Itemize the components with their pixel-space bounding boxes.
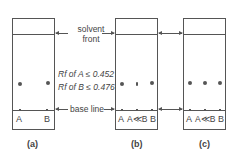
origin-tick — [219, 109, 221, 111]
caption-a: (a) — [27, 139, 38, 149]
solvent-front-arrow-right — [102, 33, 114, 34]
caption-b: (b) — [131, 139, 143, 149]
solvent-front-arrow-bc — [159, 33, 182, 34]
spot-mix — [203, 81, 207, 85]
lane-label-mix: A≪B — [195, 115, 215, 124]
rf-b-label: Rf of B ≤ 0.476 — [58, 82, 115, 92]
base-line-arrow-left — [56, 109, 68, 110]
origin-tick — [189, 109, 191, 111]
solvent-front-line — [13, 34, 54, 35]
lane-label-b: B — [150, 115, 156, 124]
lane-label-b: B — [44, 115, 50, 124]
origin-tick — [121, 109, 123, 111]
spot-a — [18, 82, 22, 86]
base-line-arrow-bc — [159, 109, 182, 110]
spot-mix — [136, 82, 138, 86]
base-line-label: base line — [70, 104, 104, 114]
solvent-front-line — [184, 34, 225, 35]
lane-label-b: B — [218, 115, 224, 124]
origin-tick — [19, 109, 21, 111]
plate-b: A A≪B B — [115, 18, 158, 130]
caption-c: (c) — [199, 139, 210, 149]
spot-a — [120, 82, 124, 86]
solvent-front-label-line2: front — [70, 34, 112, 44]
lane-label-a: A — [186, 115, 192, 124]
origin-tick — [204, 109, 206, 111]
spot-b — [150, 81, 154, 85]
solvent-front-line — [116, 34, 157, 35]
plate-a: A B — [12, 18, 55, 130]
lane-label-a: A — [118, 115, 124, 124]
lane-label-a: A — [16, 115, 22, 124]
base-line-arrow-right — [104, 109, 114, 110]
spot-a — [188, 81, 192, 85]
spot-b — [218, 81, 222, 85]
rf-a-label: Rf of A ≤ 0.452 — [58, 69, 114, 79]
solvent-front-arrow-left — [56, 33, 68, 34]
origin-tick — [151, 109, 153, 111]
spot-b — [46, 81, 50, 85]
plate-c: A A≪B B — [183, 18, 226, 130]
origin-tick — [136, 109, 138, 111]
origin-tick — [46, 109, 48, 111]
solvent-front-label: solvent front — [70, 24, 112, 44]
lane-label-mix: A≪B — [127, 115, 147, 124]
